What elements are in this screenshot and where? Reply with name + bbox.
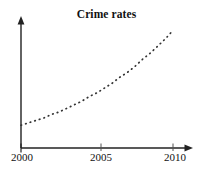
data-series-line-crime-rate (21, 30, 173, 125)
x-tick-label-2010: 2010 (155, 151, 195, 163)
x-tick-label-2005: 2005 (81, 151, 121, 163)
crime-rates-chart: Crime rates 2000 2005 2010 (0, 0, 199, 169)
y-axis-arrow-icon (18, 16, 25, 25)
x-tick-label-2000: 2000 (2, 151, 42, 163)
chart-plot-area (0, 0, 199, 169)
